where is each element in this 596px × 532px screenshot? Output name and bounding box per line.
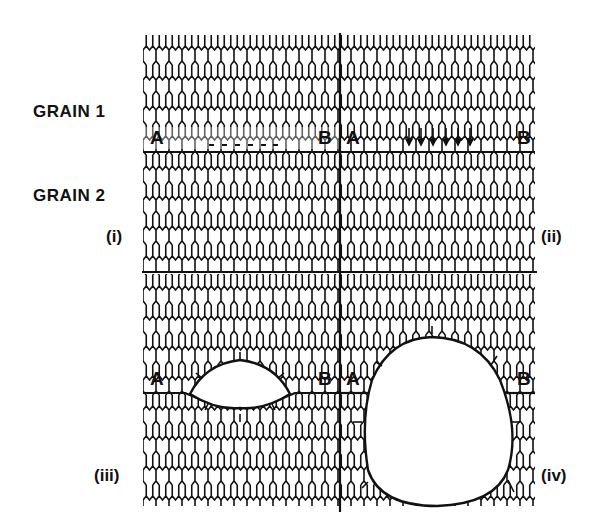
panel-i-point-a: A [150,127,164,149]
large-cavity [365,337,513,506]
panel-iv-label: (iv) [541,466,567,486]
panel-ii-point-b: B [517,127,531,149]
panel-iii-point-a: A [150,368,164,390]
panel-i-boundary [143,127,339,152]
panel-ii-label: (ii) [541,227,562,247]
panel-i-point-b: B [318,127,332,149]
grain-2-label: GRAIN 2 [33,186,105,206]
panel-iv-point-b: B [517,368,531,390]
panel-iii-label: (iii) [94,466,120,486]
panel-ii-point-a: A [346,127,360,149]
panel-iii-point-b: B [318,368,332,390]
grain-1-label: GRAIN 1 [33,102,105,122]
panel-iv-point-a: A [346,368,360,390]
panel-i-label: (i) [106,227,122,247]
grain-boundary-cavity-diagram [0,0,596,532]
